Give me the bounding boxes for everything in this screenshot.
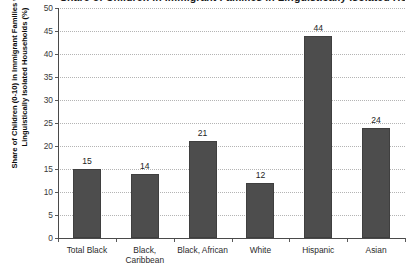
bar-value-label: 24 (371, 116, 381, 125)
y-axis-title-line-1: Share of Children (0-10) in Immigrant Fa… (10, 0, 21, 169)
x-axis-tick-label: Black, African (173, 245, 233, 255)
bar-value-label: 15 (82, 157, 92, 166)
y-axis-tick-label: 45 (44, 27, 53, 35)
bar[interactable] (304, 36, 332, 238)
x-axis-tick-label: Asian (346, 245, 406, 255)
bar[interactable] (189, 141, 217, 238)
bar-slot: 15 (58, 8, 116, 238)
x-axis-tick-label: Black,Caribbean (115, 245, 175, 265)
x-axis-tick-label-line: Black, African (173, 245, 233, 255)
bar[interactable] (362, 128, 390, 238)
y-axis-tick-label: 50 (44, 4, 53, 12)
x-axis-line (58, 238, 405, 239)
bar-value-label: 44 (313, 24, 323, 33)
x-axis-tick-label-line: Asian (346, 245, 406, 255)
y-axis-tick-label: 10 (44, 188, 53, 196)
y-axis-title: Share of Children (0-10) in Immigrant Fa… (7, 0, 33, 193)
y-axis-tick-label: 15 (44, 165, 53, 173)
bar-slot: 12 (232, 8, 290, 238)
y-axis-tick-label: 20 (44, 142, 53, 150)
x-axis-tick-label: Hispanic (288, 245, 348, 255)
x-axis-tick-label-line: Total Black (57, 245, 117, 255)
y-axis-title-line-2: Linguistically Isolated Households (%) (20, 8, 31, 147)
bar[interactable] (246, 183, 274, 238)
bar-slot: 24 (347, 8, 405, 238)
y-axis-line (58, 8, 59, 238)
y-axis-tick-label: 0 (48, 234, 53, 242)
x-axis-tick-label: White (230, 245, 290, 255)
bar[interactable] (131, 174, 159, 238)
x-axis-tick-label-line: Caribbean (115, 255, 175, 265)
y-axis-tick-label: 40 (44, 50, 53, 58)
y-axis-tick-label: 30 (44, 96, 53, 104)
bar-slot: 44 (289, 8, 347, 238)
y-axis-tick-label: 5 (48, 211, 53, 219)
plot-area: 50454035302520151050 15Total Black14Blac… (58, 8, 405, 238)
bar-value-label: 21 (198, 129, 208, 138)
x-axis-tick-label-line: Black, (115, 245, 175, 255)
chart-title: Share of Children in Immigrant Families … (60, 0, 405, 3)
bar-chart: Share of Children in Immigrant Families … (0, 0, 418, 272)
y-axis-tick-label: 35 (44, 73, 53, 81)
bar[interactable] (73, 169, 101, 238)
x-axis-tick-mark (405, 238, 406, 242)
x-axis-tick-label: Total Black (57, 245, 117, 255)
x-axis-tick-label-line: Hispanic (288, 245, 348, 255)
bar-slot: 14 (116, 8, 174, 238)
bar-value-label: 12 (256, 171, 266, 180)
y-axis-tick-label: 25 (44, 119, 53, 127)
x-axis-tick-label-line: White (230, 245, 290, 255)
bar-value-label: 14 (140, 162, 150, 171)
bar-slot: 21 (174, 8, 232, 238)
